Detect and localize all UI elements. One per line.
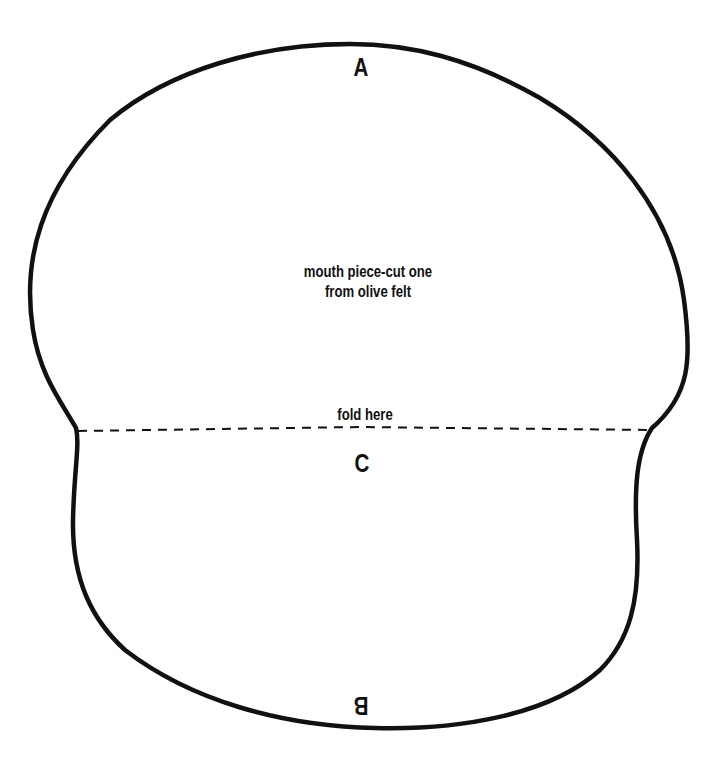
instructions-line-2: from olive felt — [261, 282, 474, 302]
cutting-instructions: mouth piece-cut one from olive felt — [261, 262, 474, 302]
pattern-outline-drawing — [0, 0, 719, 776]
fold-here-label: fold here — [312, 406, 419, 424]
fold-line — [78, 427, 652, 431]
mouth-piece-outline — [30, 44, 688, 728]
instructions-line-1: mouth piece-cut one — [261, 262, 474, 282]
point-label-a: A — [345, 55, 378, 80]
point-label-b: B — [345, 693, 378, 718]
point-label-c: C — [346, 451, 379, 476]
